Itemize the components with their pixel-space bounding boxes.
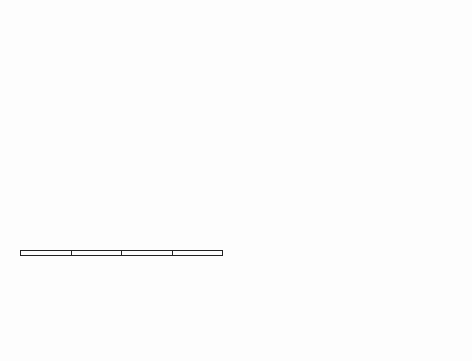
us-map-svg [0, 30, 472, 260]
th-bushels-left [71, 251, 122, 256]
th-state-left [21, 251, 72, 256]
us-map [0, 30, 472, 260]
production-table [20, 250, 223, 256]
table-header-row [21, 251, 223, 256]
map-figure [0, 0, 472, 361]
th-state-right [122, 251, 173, 256]
th-bushels-right [172, 251, 223, 256]
production-table-block [20, 247, 225, 256]
